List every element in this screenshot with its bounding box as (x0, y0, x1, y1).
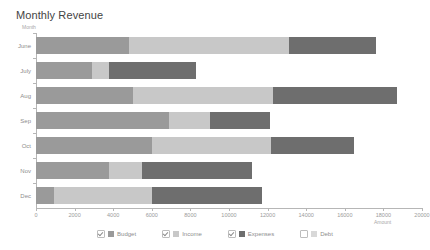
bar-segment-expenses[interactable] (271, 137, 354, 154)
x-axis-tick-label: 18000 (376, 212, 391, 218)
x-axis-tick (268, 208, 269, 211)
legend-swatch-debt (311, 231, 317, 237)
y-axis-tick-label: June (18, 43, 31, 49)
legend-label: Budget (117, 231, 136, 237)
x-axis-title: Amount (374, 219, 391, 225)
bar-row: Aug (36, 83, 422, 108)
stacked-bar[interactable] (36, 112, 270, 129)
bar-segment-expenses[interactable] (273, 87, 397, 104)
bar-segment-budget[interactable] (36, 137, 152, 154)
legend-swatch-budget (108, 231, 114, 237)
y-axis-tick (33, 183, 36, 184)
y-axis-tick-label: Oct (22, 143, 31, 149)
chart-title: Monthly Revenue (16, 9, 103, 21)
bar-segment-income[interactable] (54, 187, 151, 204)
bar-row: Oct (36, 133, 422, 158)
legend-label: Income (182, 231, 202, 237)
legend-item-expenses[interactable]: Expenses (228, 230, 274, 238)
bar-segment-income[interactable] (92, 62, 109, 79)
x-axis-tick-label: 0 (34, 212, 37, 218)
x-axis-tick (75, 208, 76, 211)
chart-legend: BudgetIncomeExpensesDebt (0, 230, 430, 238)
bar-row: June (36, 33, 422, 58)
y-axis-tick (33, 58, 36, 59)
legend-item-debt[interactable]: Debt (300, 230, 333, 238)
x-axis-tick (152, 208, 153, 211)
bar-segment-budget[interactable] (36, 112, 169, 129)
stacked-bar[interactable] (36, 62, 196, 79)
bar-segment-income[interactable] (152, 137, 272, 154)
x-axis-tick-label: 6000 (146, 212, 158, 218)
plot-area: JuneJulyAugSepOctNovDec (36, 33, 422, 208)
y-axis-tick-label: Sep (20, 118, 31, 124)
bar-row: Dec (36, 183, 422, 208)
stacked-bar[interactable] (36, 137, 354, 154)
bar-segment-expenses[interactable] (210, 112, 270, 129)
y-axis-tick-label: Aug (20, 93, 31, 99)
x-axis-tick-label: 12000 (260, 212, 275, 218)
y-axis-tick (33, 33, 36, 34)
legend-checkbox-income[interactable] (162, 230, 170, 238)
x-axis-tick (229, 208, 230, 211)
bar-row: July (36, 58, 422, 83)
chart-container: Monthly Revenue Month Amount JuneJulyAug… (0, 0, 430, 250)
legend-swatch-expenses (239, 231, 245, 237)
x-axis-tick (422, 208, 423, 211)
bar-segment-budget[interactable] (36, 162, 109, 179)
bar-row: Sep (36, 108, 422, 133)
bar-segment-budget[interactable] (36, 62, 92, 79)
bar-row: Nov (36, 158, 422, 183)
x-axis-tick-label: 16000 (337, 212, 352, 218)
stacked-bar[interactable] (36, 37, 376, 54)
bar-segment-income[interactable] (169, 112, 210, 129)
x-axis-tick (113, 208, 114, 211)
legend-label: Expenses (248, 231, 274, 237)
x-axis-tick-label: 10000 (221, 212, 236, 218)
x-axis-tick-label: 8000 (184, 212, 196, 218)
bar-segment-budget[interactable] (36, 37, 129, 54)
y-axis-title: Month (22, 24, 36, 30)
y-axis-tick-label: Dec (20, 193, 31, 199)
x-axis-tick (36, 208, 37, 211)
legend-swatch-income (173, 231, 179, 237)
x-axis-tick (190, 208, 191, 211)
bar-segment-expenses[interactable] (109, 62, 196, 79)
bar-segment-income[interactable] (129, 37, 289, 54)
x-axis-tick-label: 20000 (414, 212, 429, 218)
legend-item-income[interactable]: Income (162, 230, 202, 238)
y-axis-tick-label: July (20, 68, 31, 74)
bar-segment-budget[interactable] (36, 187, 54, 204)
y-axis-tick (33, 133, 36, 134)
y-axis-tick (33, 108, 36, 109)
x-axis-tick (306, 208, 307, 211)
legend-checkbox-expenses[interactable] (228, 230, 236, 238)
legend-label: Debt (320, 231, 333, 237)
legend-checkbox-budget[interactable] (97, 230, 105, 238)
bar-segment-budget[interactable] (36, 87, 133, 104)
stacked-bar[interactable] (36, 162, 252, 179)
y-axis-tick (33, 158, 36, 159)
y-axis-tick-label: Nov (20, 168, 31, 174)
bar-segment-expenses[interactable] (152, 187, 262, 204)
stacked-bar[interactable] (36, 187, 262, 204)
legend-item-budget[interactable]: Budget (97, 230, 136, 238)
bar-segment-expenses[interactable] (142, 162, 252, 179)
bar-segment-expenses[interactable] (289, 37, 376, 54)
bar-segment-income[interactable] (133, 87, 274, 104)
bar-segment-income[interactable] (109, 162, 142, 179)
x-axis-tick-label: 2000 (68, 212, 80, 218)
x-axis-tick-label: 4000 (107, 212, 119, 218)
x-axis-tick-label: 14000 (299, 212, 314, 218)
stacked-bar[interactable] (36, 87, 397, 104)
x-axis-tick (383, 208, 384, 211)
y-axis-tick (33, 83, 36, 84)
legend-checkbox-debt[interactable] (300, 230, 308, 238)
x-axis-tick (345, 208, 346, 211)
